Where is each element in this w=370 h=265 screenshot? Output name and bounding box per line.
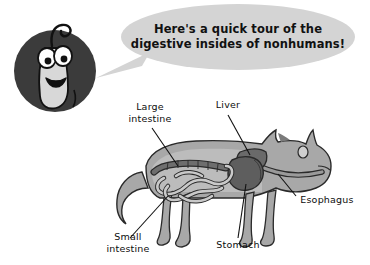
speech-bubble-tail [96, 52, 150, 78]
mascot-left-pupil [45, 58, 52, 65]
speech-bubble: Here's a quick tour of the digestive ins… [96, 4, 355, 78]
label-esophagus: Esophagus [300, 194, 353, 205]
label-stomach: Stomach [216, 239, 259, 250]
cat-front-leg-near [261, 190, 276, 246]
mascot-right-pupil [61, 56, 68, 63]
label-small-intestine-line-1: Small [114, 231, 141, 242]
speech-bubble-line-2: digestive insides of nonhumans! [131, 37, 345, 51]
speech-bubble-line-1: Here's a quick tour of the [154, 22, 322, 36]
mascot [14, 25, 96, 112]
label-small-intestine-line-2: intestine [106, 243, 149, 254]
cat-tail [117, 172, 148, 224]
label-liver: Liver [216, 99, 240, 110]
illustration-canvas: Here's a quick tour of the digestive ins… [0, 0, 370, 265]
label-large-intestine-line-2: intestine [128, 113, 171, 124]
label-large-intestine-line-1: Large [136, 101, 164, 112]
cat-eye [298, 146, 308, 158]
